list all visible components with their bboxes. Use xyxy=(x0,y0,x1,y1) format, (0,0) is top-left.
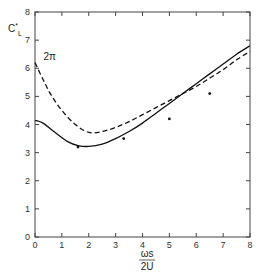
y-tick-label: 2 xyxy=(25,176,30,186)
solid-curve xyxy=(35,46,250,147)
y-tick-label: 6 xyxy=(25,63,30,73)
x-tick-label: 7 xyxy=(221,240,226,250)
y-tick-label: 5 xyxy=(25,91,30,101)
y-tick-label: 1 xyxy=(25,204,30,214)
x-tick-label: 6 xyxy=(194,240,199,250)
y-tick-label: 3 xyxy=(25,148,30,158)
data-point xyxy=(77,146,80,149)
axis-ticks: 012345678012345678 xyxy=(25,7,253,250)
x-tick-label: 5 xyxy=(167,240,172,250)
x-tick-label: 8 xyxy=(247,240,252,250)
x-tick-label: 0 xyxy=(32,240,37,250)
data-point xyxy=(168,117,171,120)
y-tick-label: 4 xyxy=(25,120,30,130)
dashed-curve xyxy=(35,51,250,132)
data-point xyxy=(122,137,125,140)
plot-frame xyxy=(35,12,250,237)
x-axis-label-denominator: 2U xyxy=(141,261,154,272)
x-tick-label: 3 xyxy=(113,240,118,250)
annotation-2pi: 2π xyxy=(43,51,56,62)
y-tick-label: 8 xyxy=(25,7,30,17)
series-lines xyxy=(35,46,250,147)
x-axis-label-numerator: ωs xyxy=(141,248,154,259)
y-tick-label: 7 xyxy=(25,35,30,45)
data-points xyxy=(77,92,211,148)
data-point xyxy=(208,92,211,95)
x-tick-label: 2 xyxy=(86,240,91,250)
y-tick-label: 0 xyxy=(25,232,30,242)
plot-border xyxy=(35,12,250,237)
y-axis-label: C*L xyxy=(8,22,22,37)
x-tick-label: 1 xyxy=(59,240,64,250)
chart: 012345678012345678 C*L 2π ωs 2U xyxy=(0,0,259,277)
